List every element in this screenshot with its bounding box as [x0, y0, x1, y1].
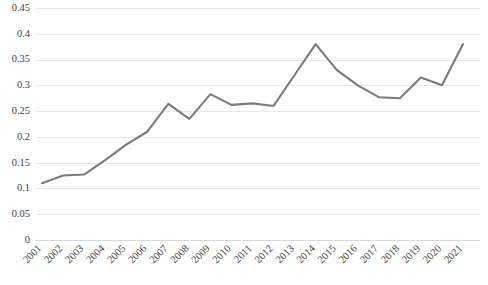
x-axis-tick-label: 2017: [358, 243, 381, 266]
y-axis-tick-label: 0.35: [12, 53, 30, 64]
x-axis-tick-label: 2008: [168, 243, 191, 266]
x-axis-tick-label: 2012: [252, 243, 275, 266]
x-axis-tick-label: 2014: [294, 242, 317, 265]
x-axis-tick-label: 2002: [42, 243, 65, 266]
x-axis-tick-labels: 2001200220032004200520062007200820092010…: [21, 242, 465, 265]
y-axis-tick-label: 0: [25, 234, 30, 245]
data-series-group: [42, 44, 463, 183]
x-axis-tick-label: 2004: [84, 242, 107, 265]
x-axis-tick-label: 2019: [400, 243, 423, 266]
x-axis-tick-label: 2006: [126, 243, 149, 266]
gridlines: [36, 9, 480, 241]
x-axis-tick-label: 2020: [421, 243, 444, 266]
data-series-line: [42, 44, 463, 183]
x-axis-tick-label: 2021: [442, 243, 465, 266]
line-chart-figure: 00.050.10.150.20.250.30.350.40.45 200120…: [0, 0, 488, 285]
x-axis-tick-label: 2011: [232, 243, 254, 265]
y-axis-tick-label: 0.25: [12, 105, 30, 116]
chart-canvas: 00.050.10.150.20.250.30.350.40.45 200120…: [0, 0, 488, 285]
x-axis-tick-label: 2003: [63, 243, 86, 266]
y-axis-tick-label: 0.3: [17, 79, 30, 90]
x-axis-tick-label: 2015: [315, 243, 338, 266]
y-axis-tick-label: 0.2: [17, 131, 30, 142]
x-axis-tick-label: 2001: [21, 243, 44, 266]
y-axis-tick-labels: 00.050.10.150.20.250.30.350.40.45: [12, 2, 31, 245]
y-axis-tick-label: 0.15: [12, 157, 30, 168]
x-axis-tick-label: 2016: [337, 243, 360, 266]
x-axis-tick-label: 2007: [147, 243, 170, 266]
y-axis-tick-label: 0.05: [12, 208, 30, 219]
x-axis-tick-label: 2013: [273, 243, 296, 266]
y-axis-tick-label: 0.45: [12, 2, 30, 13]
x-axis-tick-label: 2018: [379, 243, 402, 266]
x-axis-tick-label: 2009: [189, 243, 212, 266]
x-axis-tick-label: 2010: [210, 243, 233, 266]
y-axis-tick-label: 0.1: [17, 182, 30, 193]
y-axis-tick-label: 0.4: [17, 28, 31, 39]
x-axis-tick-label: 2005: [105, 243, 128, 266]
